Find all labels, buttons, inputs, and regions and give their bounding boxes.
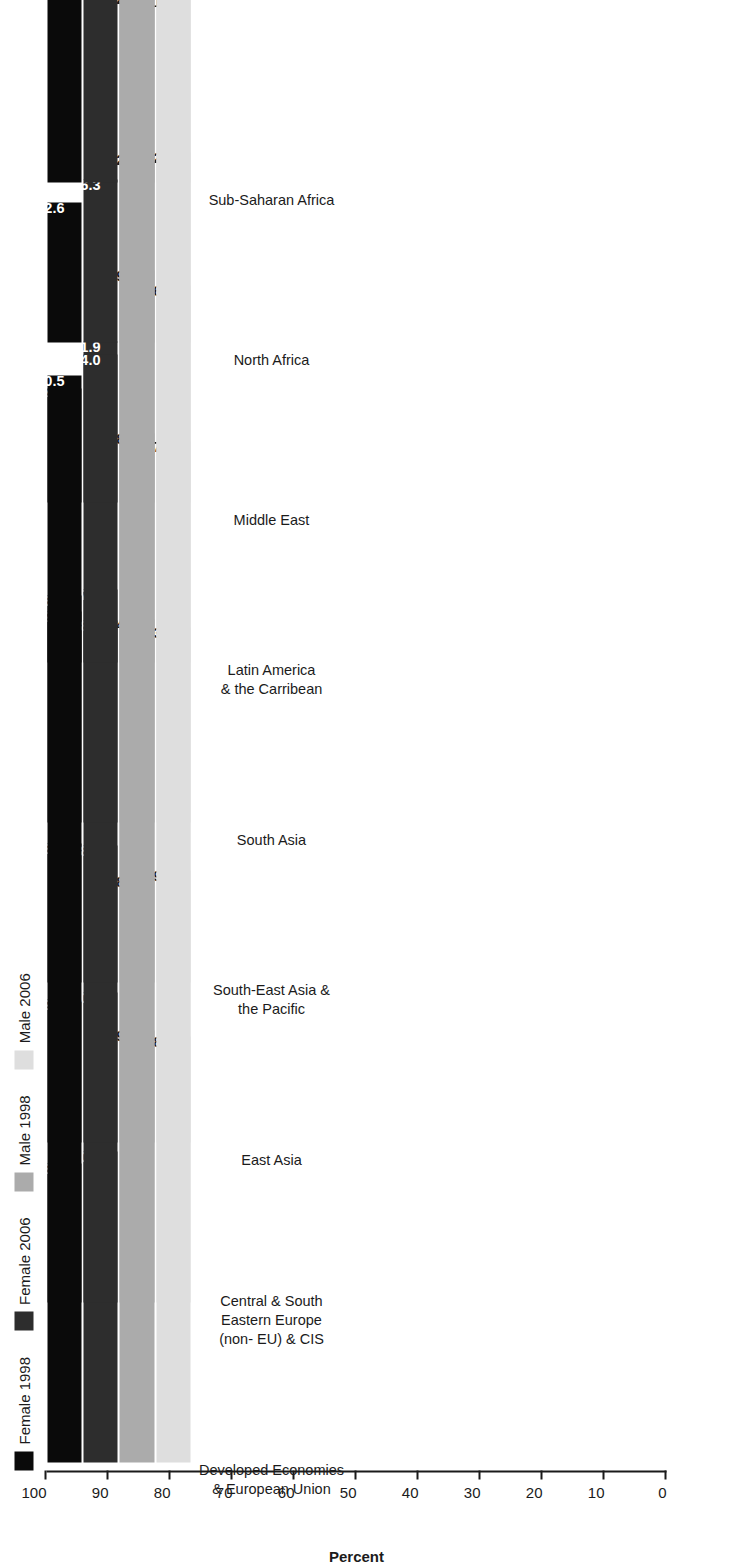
bar-group: 49.050.068.769.7Central & South Eastern … (46, 1158, 666, 1303)
bar-wrapper: 88.6 (118, 838, 154, 983)
bar-wrapper: 50.3 (82, 1318, 118, 1463)
legend-item: Male 1998 (14, 1095, 33, 1191)
axis-tick-label: 90 (91, 1484, 108, 1501)
bar (47, 0, 81, 182)
plot-area: 0102030405060708090100 48.350.369.868.7D… (46, 30, 666, 1470)
bar-wrapper: 83.2 (155, 998, 191, 1143)
chart-canvas: Female 1998Female 2006Male 1998Male 2006… (0, 0, 739, 1565)
axis-tick-label: 10 (587, 1484, 604, 1501)
legend-item-label: Female 1998 (15, 1356, 32, 1444)
bar-wrapper: 81.7 (155, 198, 191, 343)
category-label: East Asia (186, 1151, 356, 1170)
bar-wrapper: 50.0 (82, 1158, 118, 1303)
bar-wrapper: 62.2 (82, 38, 118, 183)
axis-tick (416, 1470, 418, 1479)
category-label: North Africa (186, 351, 356, 370)
legend-swatch-icon (14, 1311, 33, 1330)
legend-swatch-icon (14, 1451, 33, 1470)
bar-wrapper: 87.4 (155, 838, 191, 983)
bar-wrapper: 37.7 (82, 678, 118, 823)
bar (119, 0, 153, 182)
bar-wrapper: 59.9 (46, 838, 82, 983)
bar-wrapper: 49.0 (46, 1158, 82, 1303)
axis-tick-label: 80 (153, 1484, 170, 1501)
axis-tick-label: 0 (658, 1484, 666, 1501)
category-label: Latin America & the Carribean (186, 661, 356, 699)
bar-wrapper: 48.3 (46, 1318, 82, 1463)
bar-wrapper: 84.4 (118, 998, 154, 1143)
bar-wrapper: 69.7 (155, 1158, 191, 1303)
bar-group: 44.251.982.082.3Latin America & the Carr… (46, 518, 666, 663)
bar-wrapper: 86.7 (155, 678, 191, 823)
bar-wrapper: 82.0 (118, 518, 154, 663)
legend-item-label: Male 1998 (15, 1095, 32, 1165)
axis-tick (664, 1470, 666, 1479)
category-label: Central & South Eastern Europe (non- EU)… (186, 1292, 356, 1349)
legend-item: Male 2006 (14, 973, 33, 1069)
bar-wrapper: 36.7 (46, 678, 82, 823)
axis-tick-label: 30 (463, 1484, 480, 1501)
bar (47, 202, 81, 342)
category-label: Middle East (186, 511, 356, 530)
bar (83, 179, 117, 342)
bar-wrapper: 44.2 (46, 518, 82, 663)
legend-item-label: Female 2006 (15, 1217, 32, 1305)
axis-tick-label: 100 (21, 1484, 46, 1501)
axis-title: Percent (328, 1548, 383, 1565)
bar-value-label: 22.6 (36, 201, 64, 216)
bar-wrapper: 26.3 (82, 198, 118, 343)
category-label: South-East Asia & the Pacific (186, 981, 356, 1019)
bar-value-label: 20.5 (36, 374, 64, 389)
bar-wrapper: 51.9 (82, 518, 118, 663)
axis-tick (106, 1470, 108, 1479)
axis-tick (44, 1470, 46, 1479)
legend-item-label: Male 2006 (15, 973, 32, 1043)
bar-wrapper: 86.2 (118, 38, 154, 183)
axis-tick (602, 1470, 604, 1479)
bar-wrapper: 22.6 (46, 198, 82, 343)
bar-wrapper: 82.2 (118, 358, 154, 503)
bar-wrapper: 24.0 (82, 358, 118, 503)
bar (83, 0, 117, 182)
bar-wrapper: 89.1 (118, 678, 154, 823)
bar-wrapper: 68.7 (155, 1318, 191, 1463)
category-label: Developed Economies & European Union (186, 1461, 356, 1499)
category-label: Sub-Saharan Africa (186, 191, 356, 210)
bar-wrapper: 81.6 (155, 358, 191, 503)
bar-group: 60.862.286.285.3Sub-Saharan Africa (46, 38, 666, 183)
bar-wrapper: 20.5 (46, 358, 82, 503)
bar-group: 22.626.381.081.7North Africa (46, 198, 666, 343)
bar-group: 59.958.488.687.4South-East Asia & the Pa… (46, 838, 666, 983)
axis-tick-label: 20 (525, 1484, 542, 1501)
bar-wrapper: 58.4 (82, 838, 118, 983)
legend-swatch-icon (14, 1050, 33, 1069)
bar-value-label: 24.0 (72, 352, 100, 367)
axis-tick (540, 1470, 542, 1479)
chart-legend: Female 1998Female 2006Male 1998Male 2006 (14, 973, 33, 1470)
bar-wrapper: 85.3 (155, 38, 191, 183)
bar (83, 354, 117, 503)
bar-group: 20.524.082.281.6Middle East (46, 358, 666, 503)
bar-wrapper: 48.0 (82, 998, 118, 1143)
bar (47, 375, 81, 502)
legend-swatch-icon (14, 1172, 33, 1191)
axis-tick-label: 40 (401, 1484, 418, 1501)
axis-tick (478, 1470, 480, 1479)
axis-tick (168, 1470, 170, 1479)
bar-wrapper: 69.8 (118, 1318, 154, 1463)
category-label: South Asia (186, 831, 356, 850)
legend-item: Female 1998 (14, 1356, 33, 1470)
legend-item: Female 2006 (14, 1217, 33, 1331)
bar-wrapper: 68.7 (118, 1158, 154, 1303)
bar-wrapper: 81.0 (118, 198, 154, 343)
bar-wrapper: 48.3 (46, 998, 82, 1143)
bar-wrapper: 82.3 (155, 518, 191, 663)
bar (156, 0, 190, 182)
bar-wrapper: 60.8 (46, 38, 82, 183)
